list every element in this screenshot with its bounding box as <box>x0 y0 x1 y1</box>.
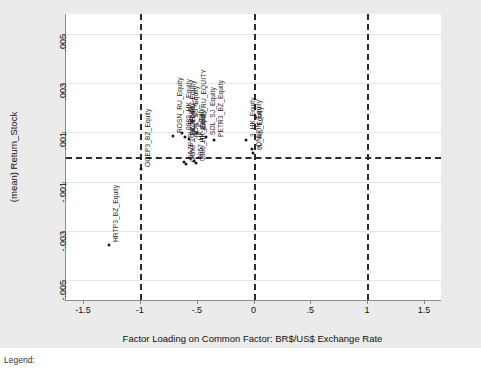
y-axis-title: (mean) Return_Stock <box>6 14 20 300</box>
horizontal-reference-line <box>66 157 441 159</box>
x-tick-mark <box>367 300 368 304</box>
scatter-point-label: HRTP3_BZ_Equity <box>112 185 119 242</box>
x-tick-label: .5 <box>307 305 315 315</box>
scatter-point[interactable] <box>108 243 111 246</box>
x-tick-label: -1 <box>136 305 144 315</box>
scatter-point[interactable] <box>212 138 215 141</box>
scatter-point[interactable] <box>245 138 248 141</box>
chart-screenshot: .005.003.001-.001-.003-.005-1.5-1-.50.51… <box>0 0 481 370</box>
y-tick-label: -.003 <box>58 231 68 252</box>
x-tick-label: -1.5 <box>75 305 91 315</box>
y-tick-label: .001 <box>58 132 68 150</box>
scatter-point[interactable] <box>251 151 254 154</box>
x-tick-mark <box>424 300 425 304</box>
y-tick-label: .003 <box>58 83 68 101</box>
x-tick-mark <box>310 300 311 304</box>
scatter-point-label: PETR3_BZ_Equity <box>217 80 224 137</box>
y-tick-label: .005 <box>58 34 68 52</box>
y-axis-title-text: (mean) Return_Stock <box>8 112 19 202</box>
figure-caption: Legend: <box>4 355 35 365</box>
scatter-point[interactable] <box>140 168 143 171</box>
x-tick-mark <box>254 300 255 304</box>
plot-area: .005.003.001-.001-.003-.005-1.5-1-.50.51… <box>65 14 441 301</box>
x-tick-label: -.5 <box>191 305 202 315</box>
scatter-point-label: OGEP3_BZ_Equity <box>144 108 151 166</box>
x-tick-label: 1 <box>365 305 370 315</box>
x-tick-label: 0 <box>251 305 256 315</box>
x-tick-mark <box>83 300 84 304</box>
y-tick-label: -.005 <box>58 280 68 301</box>
scatter-point[interactable] <box>180 131 183 134</box>
x-tick-mark <box>140 300 141 304</box>
scatter-point[interactable] <box>195 162 198 165</box>
x-tick-mark <box>197 300 198 304</box>
scatter-point-label: 0386_HK_Equity <box>199 110 206 161</box>
scatter-point[interactable] <box>171 135 174 138</box>
scatter-point-label: OGXP3_BZ_Equity <box>189 103 196 161</box>
scatter-point-label: ROSN_RU_Equity <box>176 78 183 134</box>
x-axis-title: Factor Loading on Common Factor: BR$/US$… <box>65 333 440 344</box>
scatter-point[interactable] <box>184 163 187 166</box>
scatter-point-label: SOL_SJ_Equity <box>209 87 216 135</box>
y-tick-label: -.001 <box>58 182 68 203</box>
x-tick-label: 1.5 <box>418 305 431 315</box>
scatter-point-label: 6L_HK_Equity <box>256 107 263 150</box>
